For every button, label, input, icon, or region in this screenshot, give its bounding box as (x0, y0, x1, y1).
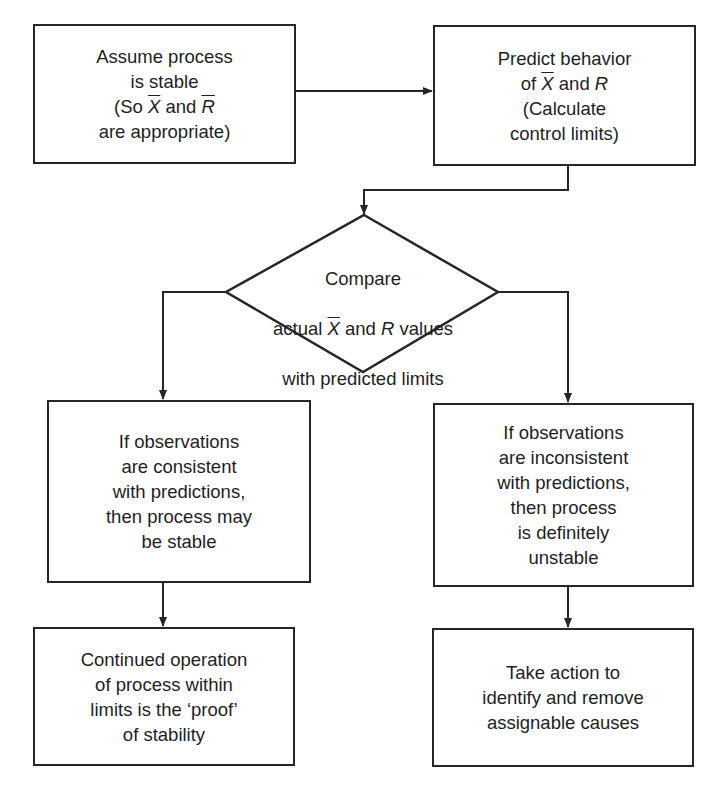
node-assume-stable-label: Assume process is stable (So X and R are… (96, 44, 233, 144)
node-take-action: Take action to identify and remove assig… (432, 628, 694, 767)
label-fragment: (So (114, 96, 148, 117)
label-line: (Calculate (498, 96, 632, 121)
label-line: actual X and R values (226, 316, 500, 341)
node-predict-behavior-label: Predict behavior of X and R (Calculate c… (498, 46, 632, 146)
label-line: with predicted limits (226, 366, 500, 391)
node-compare-label: Compare actual X and R values with predi… (226, 241, 500, 416)
label-line: are appropriate) (96, 119, 233, 144)
node-take-action-label: Take action to identify and remove assig… (482, 660, 643, 735)
x-bar-symbol: X (328, 318, 340, 339)
label-line: Predict behavior (498, 46, 632, 71)
node-continued-operation: Continued operation of process within li… (33, 627, 295, 766)
label-line: Compare (226, 266, 500, 291)
flowchart-canvas: Assume process is stable (So X and R are… (0, 0, 720, 793)
label-fragment: and (554, 73, 595, 94)
node-continued-operation-label: Continued operation of process within li… (81, 647, 248, 747)
node-inconsistent-label: If observations are inconsistent with pr… (497, 420, 630, 570)
label-fragment: values (394, 318, 453, 339)
label-fragment: and (340, 318, 381, 339)
node-assume-stable: Assume process is stable (So X and R are… (33, 24, 296, 164)
x-bar-symbol: X (541, 73, 553, 94)
label-fragment: and (160, 96, 201, 117)
node-consistent-label: If observations are consistent with pred… (106, 429, 252, 554)
label-line: control limits) (498, 121, 632, 146)
label-fragment: of (521, 73, 542, 94)
edge-compare-to-inconsistent (498, 292, 568, 402)
node-predict-behavior: Predict behavior of X and R (Calculate c… (433, 25, 696, 166)
label-line: of X and R (498, 71, 632, 96)
node-consistent: If observations are consistent with pred… (47, 400, 311, 583)
edge-predict-to-compare (364, 165, 568, 214)
r-symbol: R (381, 318, 394, 339)
x-bar-symbol: X (148, 96, 160, 117)
r-symbol: R (595, 73, 608, 94)
edge-compare-to-consistent (163, 292, 226, 399)
label-line: Assume process (96, 44, 233, 69)
r-bar-symbol: R (202, 96, 215, 117)
node-inconsistent: If observations are inconsistent with pr… (433, 403, 694, 587)
label-fragment: actual (273, 318, 328, 339)
label-line: is stable (96, 69, 233, 94)
label-line: (So X and R (96, 94, 233, 119)
